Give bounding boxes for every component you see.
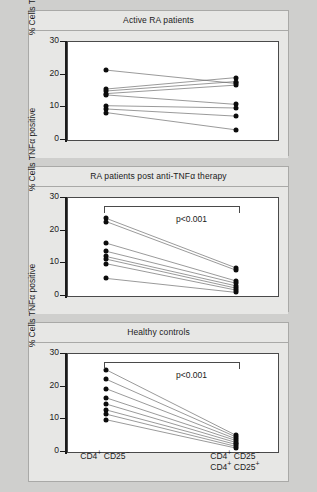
y-tick-10 [60,106,66,107]
pair-line-7 [106,278,236,292]
y-tick-label-0: 0 [54,289,59,299]
data-point-left-3 [104,395,109,400]
y-tick-label-10: 10 [50,256,59,266]
y-tick-10 [60,262,66,263]
data-point-left-1 [104,377,109,382]
y-axis-label: % Cells TNFα positive [27,86,40,213]
y-tick-label-30: 30 [50,191,59,201]
y-tick-label-0: 0 [54,133,59,143]
pair-line-6 [106,264,236,290]
data-point-right-6 [234,114,239,119]
y-tick-label-10: 10 [50,100,59,110]
data-point-right-5 [234,105,239,110]
pair-line-4 [106,256,236,285]
pair-line-1 [106,78,236,89]
data-point-right-7 [234,446,239,451]
panel-post-anti-tnf: RA patients post anti-TNFα therapy% Cell… [28,166,289,312]
y-axis-label: % Cells TNFα positive [27,242,40,369]
pair-line-5 [106,410,236,445]
y-tick-label-30: 30 [50,35,59,45]
connector-lines [68,42,278,140]
pair-line-4 [106,404,236,443]
pair-line-1 [106,222,236,271]
plot-frame-active-ra [67,41,279,141]
y-tick-20 [60,386,66,387]
panel-healthy-controls: Healthy controls% Cells TNFα positive010… [28,322,289,482]
y-tick-0 [60,295,66,296]
y-axis-label: % Cells TNFα positive [27,0,40,57]
panel-title-healthy-controls: Healthy controls [29,323,288,343]
data-point-left-6 [104,261,109,266]
pair-line-5 [106,106,236,108]
pair-line-0 [106,218,236,268]
pair-line-5 [106,259,236,288]
significance-bracket [104,362,240,369]
pair-line-3 [106,251,236,283]
panel-active-ra: Active RA patients% Cells TNFα positive0… [28,10,289,156]
plot-frame-post-anti-tnf: p<0.001 [67,197,279,297]
y-tick-30 [60,353,66,354]
y-tick-label-0: 0 [54,445,59,455]
data-point-right-1 [234,268,239,273]
y-tick-10 [60,418,66,419]
data-point-right-7 [234,127,239,132]
pair-line-0 [106,70,236,83]
plot-area-active-ra: % Cells TNFα positive0102030 [29,31,288,158]
data-point-left-7 [104,110,109,115]
figure-root: Active RA patients% Cells TNFα positive0… [0,0,317,492]
y-tick-30 [60,41,66,42]
data-point-left-7 [104,276,109,281]
y-tick-0 [60,139,66,140]
y-tick-30 [60,197,66,198]
data-point-left-0 [104,68,109,73]
y-tick-label-20: 20 [50,68,59,78]
y-tick-label-20: 20 [50,224,59,234]
panel-title-post-anti-tnf: RA patients post anti-TNFα therapy [29,167,288,187]
y-tick-20 [60,230,66,231]
data-point-left-6 [104,412,109,417]
plot-frame-healthy-controls: p<0.001 [67,353,279,453]
data-point-left-1 [104,219,109,224]
pair-line-1 [106,379,236,437]
x-tick-label-right: CD4+ CD25−CD4+ CD25+ [190,451,280,473]
significance-bracket [104,206,240,213]
y-tick-label-30: 30 [50,347,59,357]
pair-line-2 [106,389,236,439]
y-tick-label-10: 10 [50,412,59,422]
p-value-label: p<0.001 [176,214,207,224]
p-value-label: p<0.001 [176,370,207,380]
data-point-left-2 [104,386,109,391]
plot-area-post-anti-tnf: % Cells TNFα positive0102030p<0.001 [29,187,288,314]
data-point-left-4 [104,401,109,406]
data-point-left-4 [104,92,109,97]
pair-line-2 [106,243,236,281]
x-tick-label-left: CD4+ CD25− [60,451,150,461]
pair-line-0 [106,370,236,436]
data-point-left-7 [104,417,109,422]
data-point-left-2 [104,241,109,246]
y-tick-20 [60,74,66,75]
panel-title-active-ra: Active RA patients [29,11,288,31]
data-point-right-7 [234,290,239,295]
pair-line-4 [106,95,236,104]
y-tick-label-20: 20 [50,380,59,390]
data-point-right-3 [234,83,239,88]
